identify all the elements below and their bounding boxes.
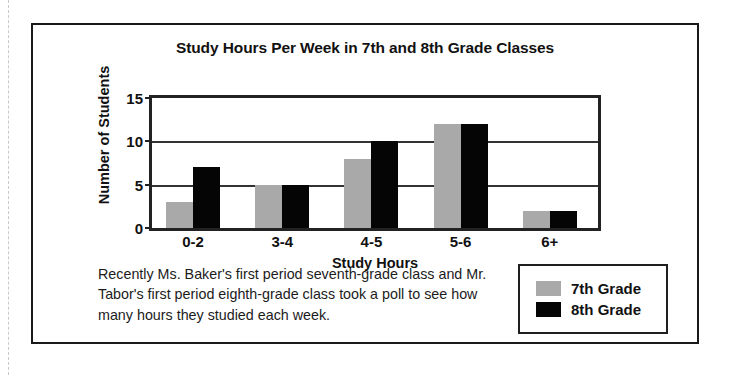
bar	[255, 185, 282, 228]
bar	[550, 211, 577, 228]
black-swatch-icon	[536, 302, 561, 317]
bar	[166, 202, 193, 228]
bar	[523, 211, 550, 228]
bar	[193, 167, 220, 228]
y-tick-label: 15	[126, 90, 152, 107]
gray-swatch-icon	[536, 281, 561, 296]
plot-block: Number of Students 051015 0-23-44-55-66+…	[33, 71, 701, 261]
y-tick-label: 10	[126, 133, 152, 150]
bars-layer	[152, 98, 598, 228]
x-tick-label: 4-5	[361, 233, 383, 250]
legend-item-label: 7th Grade	[571, 280, 641, 297]
caption-text: Recently Ms. Baker's first period sevent…	[98, 264, 503, 325]
bar	[344, 159, 371, 228]
y-tick-label: 0	[135, 220, 152, 237]
y-tick-label: 5	[135, 176, 152, 193]
bar	[461, 124, 488, 228]
chart-legend: 7th Grade 8th Grade	[518, 264, 668, 334]
plot-area: 051015 0-23-44-55-66+	[149, 95, 601, 231]
x-tick-label: 6+	[541, 233, 558, 250]
page-edge-dashed-line	[8, 0, 9, 375]
x-tick-label: 0-2	[182, 233, 204, 250]
legend-item: 8th Grade	[536, 301, 666, 318]
y-axis-title: Number of Students	[96, 60, 112, 210]
legend-item-label: 8th Grade	[571, 301, 641, 318]
bar	[282, 185, 309, 228]
legend-item: 7th Grade	[536, 280, 666, 297]
worksheet-panel: Study Hours Per Week in 7th and 8th Grad…	[31, 23, 699, 344]
x-tick-label: 5-6	[450, 233, 472, 250]
bar	[434, 124, 461, 228]
chart-title: Study Hours Per Week in 7th and 8th Grad…	[33, 39, 697, 57]
x-tick-label: 3-4	[271, 233, 293, 250]
bar	[371, 141, 398, 228]
